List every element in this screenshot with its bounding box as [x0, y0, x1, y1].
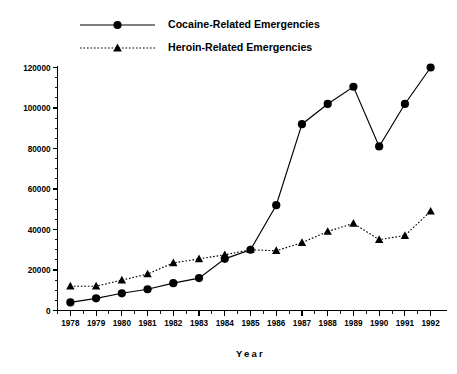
data-point-marker: [118, 289, 126, 297]
y-axis-ticks: [53, 68, 58, 311]
x-tick-label: 1985: [241, 319, 260, 328]
data-point-marker: [195, 254, 203, 262]
data-point-marker: [272, 201, 280, 209]
legend-marker-circle: [113, 21, 121, 29]
chart-series: [66, 63, 435, 306]
y-tick-label: 0: [46, 307, 51, 316]
x-axis-title: Year: [236, 348, 265, 359]
x-tick-label: 1990: [370, 319, 389, 328]
legend-item-2: Heroin-Related Emergencies: [80, 41, 312, 53]
y-tick-label: 60000: [28, 185, 51, 194]
y-tick-label: 120000: [23, 64, 51, 73]
line-chart: Cocaine-Related EmergenciesHeroin-Relate…: [0, 0, 457, 374]
x-tick-label: 1980: [113, 319, 132, 328]
data-point-marker: [118, 276, 126, 284]
x-tick-label: 1983: [190, 319, 209, 328]
x-tick-label: 1992: [422, 319, 441, 328]
data-point-marker: [349, 83, 357, 91]
x-axis-ticks: [58, 311, 431, 316]
x-axis-tick-labels: 1978197919801981198219831984198519861987…: [61, 319, 440, 328]
y-tick-label: 20000: [28, 266, 51, 275]
data-point-marker: [426, 207, 434, 215]
data-point-marker: [66, 282, 74, 290]
x-tick-label: 1991: [396, 319, 415, 328]
data-point-marker: [169, 279, 177, 287]
x-tick-label: 1986: [267, 319, 286, 328]
chart-container: Cocaine-Related EmergenciesHeroin-Relate…: [0, 0, 457, 374]
x-tick-label: 1978: [61, 319, 80, 328]
series-1: [66, 63, 434, 306]
x-tick-label: 1979: [87, 319, 106, 328]
x-tick-label: 1989: [344, 319, 363, 328]
y-tick-label: 40000: [28, 226, 51, 235]
chart-axes: [58, 66, 447, 311]
data-point-marker: [298, 120, 306, 128]
legend-marker-triangle: [113, 43, 122, 51]
data-point-marker: [324, 100, 332, 108]
data-point-marker: [324, 227, 332, 235]
data-point-marker: [298, 238, 306, 246]
data-point-marker: [195, 274, 203, 282]
data-point-marker: [92, 294, 100, 302]
data-point-marker: [143, 270, 151, 278]
legend-label: Cocaine-Related Emergencies: [168, 18, 320, 30]
x-tick-label: 1982: [164, 319, 183, 328]
y-tick-label: 100000: [23, 104, 51, 113]
y-axis-tick-labels: 020000400006000080000100000120000: [23, 64, 51, 316]
data-point-marker: [375, 142, 383, 150]
legend-label: Heroin-Related Emergencies: [168, 41, 312, 53]
series-line: [70, 68, 430, 303]
y-tick-label: 80000: [28, 145, 51, 154]
data-point-marker: [66, 298, 74, 306]
x-tick-label: 1988: [319, 319, 338, 328]
chart-legend: Cocaine-Related EmergenciesHeroin-Relate…: [80, 18, 320, 53]
data-point-marker: [401, 100, 409, 108]
series-2: [66, 207, 435, 290]
data-point-marker: [349, 219, 357, 227]
data-point-marker: [143, 285, 151, 293]
legend-item-1: Cocaine-Related Emergencies: [80, 18, 320, 30]
x-tick-label: 1987: [293, 319, 312, 328]
x-tick-label: 1984: [216, 319, 235, 328]
x-tick-label: 1981: [138, 319, 157, 328]
data-point-marker: [427, 63, 435, 71]
